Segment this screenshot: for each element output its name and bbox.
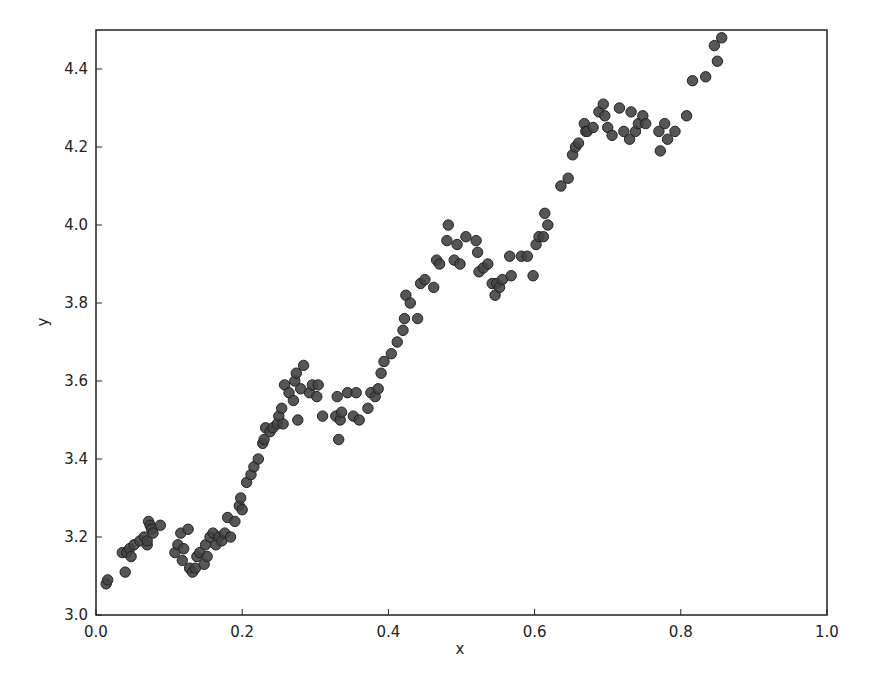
data-point	[317, 411, 327, 421]
x-axis-label: x	[456, 640, 465, 658]
data-point	[237, 505, 247, 515]
data-point	[540, 208, 550, 218]
data-point	[455, 259, 465, 269]
scatter-chart: 0.00.20.40.60.81.0 3.03.23.43.63.84.04.2…	[0, 0, 869, 682]
data-point	[376, 368, 386, 378]
data-point	[412, 313, 422, 323]
y-tick-label: 3.0	[64, 606, 88, 624]
data-point	[253, 454, 263, 464]
data-point	[336, 407, 346, 417]
data-point	[538, 232, 548, 242]
data-point	[528, 271, 538, 281]
data-point	[429, 282, 439, 292]
data-point	[506, 271, 516, 281]
y-axis-label: y	[34, 317, 52, 326]
data-point	[442, 235, 452, 245]
data-point	[505, 251, 515, 261]
data-point	[120, 567, 130, 577]
data-point	[434, 259, 444, 269]
data-point	[392, 337, 402, 347]
data-point	[701, 72, 711, 82]
data-point	[461, 232, 471, 242]
y-tick-label: 4.0	[64, 216, 88, 234]
data-point	[600, 111, 610, 121]
data-point	[288, 395, 298, 405]
x-tick-label: 1.0	[815, 623, 839, 641]
data-point	[687, 76, 697, 86]
data-point	[607, 130, 617, 140]
data-point	[363, 403, 373, 413]
x-tick-label: 0.0	[84, 623, 108, 641]
data-point	[573, 138, 583, 148]
data-point	[334, 434, 344, 444]
data-point	[472, 247, 482, 257]
data-point	[522, 251, 532, 261]
data-point	[399, 313, 409, 323]
data-point	[386, 349, 396, 359]
y-tick-label: 3.2	[64, 528, 88, 546]
data-point	[351, 388, 361, 398]
data-point	[420, 274, 430, 284]
data-point	[443, 220, 453, 230]
x-tick-label: 0.6	[523, 623, 547, 641]
data-point	[563, 173, 573, 183]
data-point	[483, 259, 493, 269]
data-point	[183, 524, 193, 534]
data-point	[641, 118, 651, 128]
y-tick-label: 3.6	[64, 372, 88, 390]
data-point	[598, 99, 608, 109]
x-tick-label: 0.4	[376, 623, 400, 641]
data-point	[626, 107, 636, 117]
data-point	[614, 103, 624, 113]
y-tick-label: 4.2	[64, 138, 88, 156]
plot-area	[96, 30, 827, 615]
y-tick-label: 4.4	[64, 60, 88, 78]
data-point	[452, 239, 462, 249]
x-tick-label: 0.2	[230, 623, 254, 641]
data-point	[225, 532, 235, 542]
data-point	[354, 415, 364, 425]
data-point	[405, 298, 415, 308]
data-point	[543, 220, 553, 230]
y-tick-label: 3.8	[64, 294, 88, 312]
data-point	[588, 122, 598, 132]
data-point	[126, 551, 136, 561]
data-point	[670, 126, 680, 136]
data-point	[681, 111, 691, 121]
data-point	[655, 146, 665, 156]
data-point	[230, 516, 240, 526]
data-point	[471, 235, 481, 245]
data-point	[155, 520, 165, 530]
data-point	[278, 419, 288, 429]
data-point	[277, 403, 287, 413]
x-tick-label: 0.8	[669, 623, 693, 641]
data-point	[373, 384, 383, 394]
data-point	[660, 118, 670, 128]
data-point	[313, 380, 323, 390]
data-point	[202, 551, 212, 561]
y-tick-label: 3.4	[64, 450, 88, 468]
data-point	[103, 575, 113, 585]
data-point	[298, 360, 308, 370]
data-point	[717, 33, 727, 43]
data-point	[398, 325, 408, 335]
data-point	[236, 493, 246, 503]
data-point	[179, 544, 189, 554]
data-point	[712, 56, 722, 66]
data-point	[312, 391, 322, 401]
data-point	[332, 391, 342, 401]
data-point	[293, 415, 303, 425]
